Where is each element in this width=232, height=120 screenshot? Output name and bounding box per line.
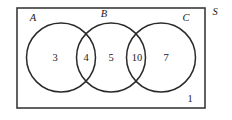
venn-diagram-figure: A B C S 3 4 5 10 7 1	[0, 0, 232, 120]
region-count-c-only: 7	[163, 52, 168, 63]
set-label-a: A	[29, 12, 37, 23]
region-count-b-and-c: 10	[132, 52, 143, 63]
region-count-a-and-b: 4	[83, 52, 89, 63]
region-count-outside-all: 1	[187, 93, 192, 104]
universal-set-label-s: S	[212, 6, 218, 17]
region-count-a-only: 3	[52, 52, 57, 63]
region-count-b-only: 5	[108, 52, 113, 63]
set-label-b: B	[101, 8, 108, 19]
set-label-c: C	[182, 12, 190, 23]
venn-diagram-canvas: A B C S 3 4 5 10 7 1	[0, 0, 232, 120]
